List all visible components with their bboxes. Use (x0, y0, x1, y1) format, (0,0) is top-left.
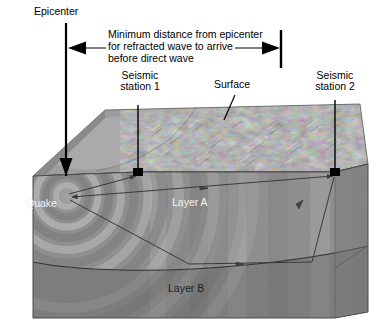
distance-callout-line2: for refracted wave to arrive (106, 41, 235, 53)
seismic-station-1-label-line2: station 1 (112, 81, 168, 93)
surface-label: Surface (214, 79, 250, 91)
quake-label: Quake (26, 198, 57, 210)
epicenter-label: Epicenter (34, 6, 78, 18)
distance-callout-line3: before direct wave (106, 53, 196, 65)
layer-b-label: Layer B (168, 283, 204, 295)
distance-callout-line1: Minimum distance from epicenter (106, 29, 265, 41)
figure-canvas: Epicenter Minimum distance from epicente… (0, 0, 383, 333)
seismic-station-2-label-line2: station 2 (307, 81, 363, 93)
layer-a-label: Layer A (172, 197, 208, 209)
top-surface-face (33, 100, 373, 180)
